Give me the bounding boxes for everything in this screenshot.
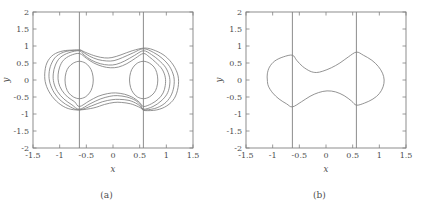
panel-b-contours: [267, 12, 384, 148]
figure-container: -1.5-1-0.500.511.521.510.50-0.5-1-1.5-2 …: [0, 0, 427, 202]
panel-a: -1.5-1-0.500.511.521.510.50-0.5-1-1.5-2 …: [0, 0, 213, 202]
y-tick-label: 0: [24, 76, 29, 85]
panel-a-tick-labels: -1.5-1-0.500.511.521.510.50-0.5-1-1.5-2: [14, 8, 200, 160]
panel-b-tick-labels: -1.5-1-0.500.511.521.510.50-0.5-1-1.5-2: [227, 8, 413, 160]
panel-b-ticks: [246, 12, 406, 148]
x-tick-label: -1: [56, 151, 64, 160]
x-tick-label: 0.5: [346, 151, 359, 160]
x-tick-label: -0.5: [79, 151, 94, 160]
y-tick-label: 1.5: [16, 25, 29, 34]
panel-b-plot: -1.5-1-0.500.511.521.510.50-0.5-1-1.5-2 …: [213, 0, 426, 202]
y-tick-label: -1.5: [14, 127, 29, 136]
x-tick-label: 1: [377, 151, 382, 160]
x-tick-label: -1: [269, 151, 277, 160]
panel-b: -1.5-1-0.500.511.521.510.50-0.5-1-1.5-2 …: [213, 0, 426, 202]
y-tick-label: -1.5: [227, 127, 242, 136]
y-tick-label: -0.5: [14, 93, 29, 102]
y-tick-label: 2: [237, 8, 242, 17]
panel-a-plot: -1.5-1-0.500.511.521.510.50-0.5-1-1.5-2 …: [0, 0, 213, 202]
y-tick-label: -1: [234, 110, 242, 119]
x-tick-label: 0.5: [133, 151, 146, 160]
y-tick-label: -1: [21, 110, 29, 119]
panel-a-ylabel: y: [1, 77, 11, 83]
panel-b-axes: [246, 12, 406, 148]
x-tick-label: 0: [323, 151, 328, 160]
y-tick-label: 2: [24, 8, 29, 17]
x-tick-label: 0: [110, 151, 115, 160]
y-tick-label: 0: [237, 76, 242, 85]
panel-a-caption: (a): [0, 190, 213, 200]
x-tick-label: 1: [164, 151, 169, 160]
y-tick-label: 1.5: [229, 25, 242, 34]
y-tick-label: 1: [24, 42, 29, 51]
x-tick-label: 1.5: [400, 151, 413, 160]
y-tick-label: 0.5: [16, 59, 29, 68]
x-tick-label: 1.5: [187, 151, 200, 160]
panel-b-caption: (b): [213, 190, 426, 200]
x-tick-label: -0.5: [292, 151, 307, 160]
panel-a-contours: [45, 12, 179, 148]
panel-a-ticks: [33, 12, 193, 148]
y-tick-label: 1: [237, 42, 242, 51]
y-tick-label: -2: [21, 144, 29, 153]
y-tick-label: -2: [234, 144, 242, 153]
y-tick-label: 0.5: [229, 59, 242, 68]
panel-b-xlabel: x: [324, 164, 329, 174]
panel-b-ylabel: y: [214, 77, 224, 83]
panel-a-xlabel: x: [111, 164, 116, 174]
y-tick-label: -0.5: [227, 93, 242, 102]
contour-peanut-contour: [267, 52, 384, 107]
panel-a-axes: [33, 12, 193, 148]
